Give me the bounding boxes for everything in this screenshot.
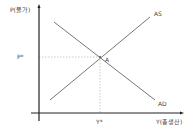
- as-ad-chart: P(물가) Y(총생산) AS AD A P* Y*: [0, 0, 194, 130]
- ad-label: AD: [158, 100, 167, 107]
- equilibrium-label: A: [105, 56, 110, 63]
- equilibrium-point: [99, 56, 101, 58]
- y-axis-arrow-icon: [38, 4, 41, 8]
- chart-canvas: P(물가) Y(총생산) AS AD A P* Y*: [0, 0, 194, 130]
- p-star-label: P*: [17, 53, 24, 60]
- y-axis-label: P(물가): [10, 6, 30, 14]
- x-axis-label: Y(총생산): [155, 118, 182, 125]
- y-star-label: Y*: [95, 118, 103, 125]
- x-axis-arrow-icon: [180, 112, 184, 115]
- as-label: AS: [154, 10, 162, 17]
